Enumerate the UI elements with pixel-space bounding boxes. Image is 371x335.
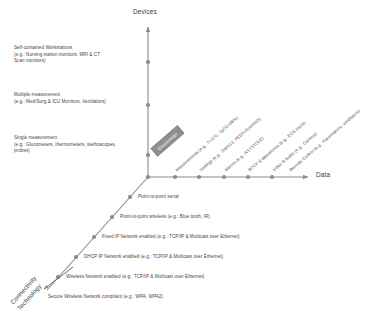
connectivity-level-label: Point-to-point serial xyxy=(138,194,179,199)
devices-level-label: Multiple measurement (e.g.: Med/Surg & I… xyxy=(14,92,146,105)
connectivity-level-label: Point-to-point wireless (e.g.: Blue toot… xyxy=(120,214,210,219)
connectivity-level-label: DHCP IP Network enabled (e.g.: TCP/IP & … xyxy=(84,254,223,259)
devices-level-label: Single measurement (e.g.: Glucometers, t… xyxy=(14,135,148,155)
origin-dot xyxy=(146,175,150,179)
connectivity-level-label: Secure Wireless Network compliant (e.g.:… xyxy=(48,294,163,299)
devices-axis-title: Devices xyxy=(133,8,157,15)
devices-tick-dot xyxy=(146,60,150,64)
connectivity-tick-dot xyxy=(92,235,96,239)
data-tick-dot xyxy=(197,175,201,179)
data-tick-dot xyxy=(246,175,250,179)
connectivity-tick-dot xyxy=(74,255,78,259)
data-axis-title: Data xyxy=(316,171,330,178)
connectivity-level-label: Wireless Network enabled (e.g.: TCP/IP &… xyxy=(66,274,204,279)
data-tick-dot xyxy=(222,175,226,179)
connectivity-level-label: Fixed IP Network enabled (e.g.: TCP/IP &… xyxy=(102,234,240,239)
data-tick-dot xyxy=(270,175,274,179)
devices-tick-dot xyxy=(146,103,150,107)
data-tick-dot xyxy=(173,175,177,179)
connectivity-tick-dot xyxy=(110,215,114,219)
connectivity-tick-dot xyxy=(128,195,132,199)
three-axis-medical-device-diagram: Devices Data Connectivity Technology Sel… xyxy=(0,0,371,335)
devices-level-label: Self-contained Workstations (e.g.: Nursi… xyxy=(14,45,146,65)
